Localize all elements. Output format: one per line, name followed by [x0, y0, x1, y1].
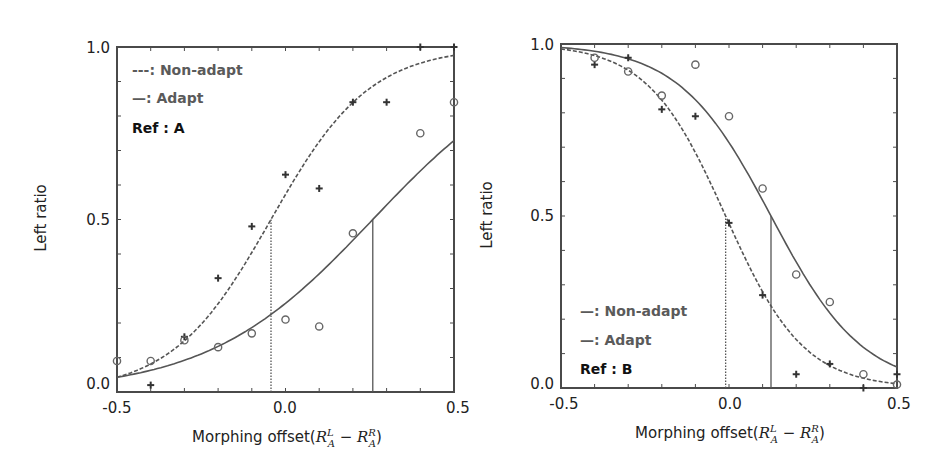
circle-marker-icon — [417, 130, 424, 137]
plus-marker-icon — [860, 385, 867, 392]
circle-marker-icon — [248, 330, 255, 337]
adapt-fit-curve — [561, 48, 897, 368]
left-y-tick-0.5: 0.5 — [86, 211, 110, 229]
circle-marker-icon — [793, 271, 800, 278]
left-x-tick--0.5: -0.5 — [102, 399, 131, 417]
circle-marker-icon — [860, 371, 867, 378]
right-legend-adapt: —: Adapt — [580, 332, 652, 348]
right-x-tick-0.5: 0.5 — [887, 395, 911, 413]
circle-marker-icon — [591, 54, 598, 61]
circle-marker-icon — [826, 298, 833, 305]
right-y-tick-1.0: 1.0 — [530, 36, 554, 54]
left-x-tick-0.0: 0.0 — [273, 399, 297, 417]
right-y-tick-0.0: 0.0 — [530, 375, 554, 393]
plus-marker-icon — [692, 113, 699, 120]
circle-marker-icon — [282, 316, 289, 323]
plus-marker-icon — [826, 360, 833, 367]
plus-marker-icon — [316, 185, 323, 192]
left-y-tick-0.0: 0.0 — [86, 375, 110, 393]
left-legend-non-adapt: ---: Non-adapt — [132, 62, 243, 78]
circle-marker-icon — [725, 113, 732, 120]
plus-marker-icon — [591, 61, 598, 68]
plus-marker-icon — [894, 371, 901, 378]
plus-marker-icon — [215, 275, 222, 282]
left-panel: Left ratio 1.0 0.5 0.0 -0.5 0.0 0.5 Morp… — [32, 39, 470, 449]
left-x-axis-label: Morphing offset(RLA − RRA) — [192, 427, 382, 449]
right-x-tick--0.5: -0.5 — [549, 395, 578, 413]
plus-marker-icon — [793, 371, 800, 378]
circle-marker-icon — [692, 61, 699, 68]
plus-marker-icon — [147, 382, 154, 389]
left-ref-label: Ref : A — [132, 120, 185, 136]
right-x-tick-0.0: 0.0 — [718, 395, 742, 413]
left-legend-adapt: —: Adapt — [132, 90, 204, 106]
plus-marker-icon — [383, 99, 390, 106]
plus-marker-icon — [248, 223, 255, 230]
left-y-tick-1.0: 1.0 — [86, 39, 110, 57]
right-y-axis-label: Left ratio — [478, 181, 496, 249]
plus-marker-icon — [282, 171, 289, 178]
plus-marker-icon — [658, 106, 665, 113]
right-panel: Left ratio 1.0 0.5 0.0 -0.5 0.0 0.5 Morp… — [478, 36, 911, 445]
circle-marker-icon — [316, 323, 323, 330]
circle-marker-icon — [658, 92, 665, 99]
left-y-axis-label: Left ratio — [32, 184, 50, 252]
figure: Left ratio 1.0 0.5 0.0 -0.5 0.0 0.5 Morp… — [0, 0, 930, 473]
right-y-tick-0.5: 0.5 — [530, 207, 554, 225]
plus-marker-icon — [726, 219, 733, 226]
circle-marker-icon — [759, 185, 766, 192]
plus-marker-icon — [451, 44, 458, 51]
right-x-axis-label: Morphing offset(RLA − RRA) — [635, 423, 825, 445]
plus-marker-icon — [759, 292, 766, 299]
plus-marker-icon — [417, 44, 424, 51]
right-legend-non-adapt: —: Non-adapt — [580, 303, 688, 319]
left-x-tick-0.5: 0.5 — [446, 399, 470, 417]
circle-marker-icon — [349, 230, 356, 237]
right-ref-label: Ref : B — [580, 361, 632, 377]
